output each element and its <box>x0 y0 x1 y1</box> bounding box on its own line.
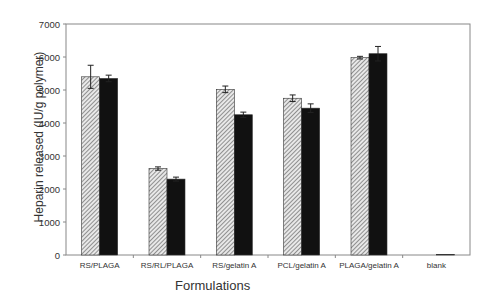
y-tick-label: 0 <box>55 250 60 261</box>
bar <box>167 179 185 255</box>
y-axis-label: Heparin released (IU/g polymer) <box>32 32 46 242</box>
bar <box>100 78 118 255</box>
chart: 01000200030004000500060007000RS/PLAGARS/… <box>0 0 486 299</box>
bar <box>284 98 302 255</box>
bar <box>436 254 454 255</box>
bar <box>369 54 387 255</box>
x-tick-label: RS/gelatin A <box>212 261 257 270</box>
y-tick-label: 7000 <box>39 19 60 30</box>
bar <box>234 115 252 255</box>
bar-chart: 01000200030004000500060007000RS/PLAGARS/… <box>0 0 486 299</box>
bar <box>82 77 100 255</box>
x-axis-label: Formulations <box>175 278 250 293</box>
bar <box>302 108 320 255</box>
bar <box>149 169 167 255</box>
x-tick-label: PCL/gelatin A <box>277 261 326 270</box>
plot-frame <box>66 24 470 255</box>
x-tick-label: RS/RL/PLAGA <box>141 261 194 270</box>
x-tick-label: PLAGA/gelatin A <box>339 261 399 270</box>
bar <box>216 89 234 255</box>
x-tick-label: blank <box>427 261 447 270</box>
bar <box>351 58 369 255</box>
x-tick-label: RS/PLAGA <box>80 261 121 270</box>
